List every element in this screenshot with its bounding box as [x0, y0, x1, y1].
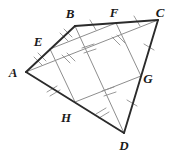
vertex-label-E: E	[33, 34, 43, 49]
edge-AB	[26, 26, 75, 72]
vertex-label-F: F	[109, 5, 119, 20]
edge-FG	[116, 23, 141, 76]
geometry-figure-container: A B C D E F G H	[0, 0, 172, 154]
inner-quadrilateral-efgh	[50, 23, 141, 102]
diagonals-group	[26, 20, 158, 133]
vertex-label-A: A	[8, 65, 18, 80]
geometry-figure-svg: A B C D E F G H	[0, 0, 172, 154]
vertex-label-G: G	[143, 71, 153, 86]
vertex-label-H: H	[60, 110, 72, 125]
vertex-label-B: B	[65, 6, 75, 21]
edge-DA	[26, 72, 124, 133]
tick-diagonal-ac-right	[112, 35, 125, 45]
edge-EF	[50, 23, 116, 49]
vertex-label-C: C	[156, 5, 165, 20]
vertex-label-D: D	[118, 138, 129, 153]
outer-quadrilateral-abcd	[26, 20, 158, 133]
edge-CD	[124, 20, 158, 133]
tick-diagonal-ac-left	[62, 53, 75, 63]
